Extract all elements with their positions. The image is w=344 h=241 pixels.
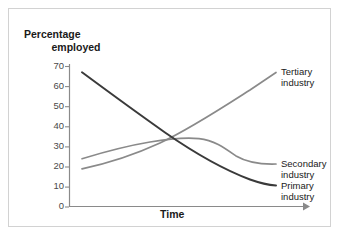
x-axis-arrowhead: [303, 203, 310, 211]
tertiary-industry-curve: [82, 73, 276, 169]
series-label-tertiary-line1: Tertiary: [281, 66, 312, 77]
y-axis-ticks: [65, 67, 69, 208]
series-label-tertiary-line2: industry: [281, 77, 314, 88]
series-label-primary: Primary industry: [281, 180, 314, 202]
primary-industry-curve: [82, 72, 276, 185]
plot-area: [0, 0, 344, 241]
figure-canvas: Percentage employed 70 60 50 40 30 20 10…: [0, 0, 344, 241]
series-curves: [82, 72, 276, 185]
series-label-primary-line2: industry: [281, 191, 314, 202]
series-label-secondary-line1: Secondary: [281, 158, 326, 169]
x-axis-title: Time: [160, 208, 184, 220]
series-label-secondary-line2: industry: [281, 169, 314, 180]
series-label-tertiary: Tertiary industry: [281, 66, 314, 88]
series-label-secondary: Secondary industry: [281, 158, 326, 180]
series-label-primary-line1: Primary: [281, 180, 314, 191]
